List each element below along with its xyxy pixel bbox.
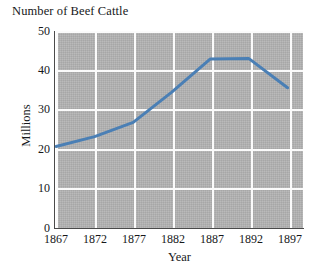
ytick-label-10: 10 [4, 182, 50, 194]
ytick-label-50: 50 [4, 25, 50, 37]
chart-figure: Number of Beef Cattle 50 40 30 20 10 0 1… [0, 0, 321, 278]
xtick-label-1897: 1897 [268, 232, 312, 246]
data-line-svg [56, 31, 303, 228]
xtick-label-1872: 1872 [73, 232, 117, 246]
x-axis-label: Year [56, 250, 303, 265]
y-axis-line [54, 31, 55, 229]
xtick-label-1877: 1877 [112, 232, 156, 246]
x-axis-line [54, 228, 304, 229]
xtick-label-1867: 1867 [34, 232, 78, 246]
xtick-label-1887: 1887 [190, 232, 234, 246]
y-axis-label: Millions [19, 91, 34, 161]
ytick-label-40: 40 [4, 64, 50, 76]
data-series-line [56, 59, 288, 147]
xtick-label-1892: 1892 [229, 232, 273, 246]
plot-area [56, 31, 303, 228]
xtick-label-1882: 1882 [151, 232, 195, 246]
